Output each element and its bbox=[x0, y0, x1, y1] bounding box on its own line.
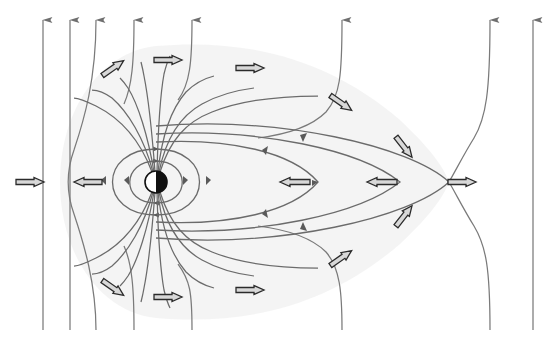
magnetopause-boundary-lower bbox=[449, 182, 490, 330]
figure-canvas bbox=[0, 0, 552, 350]
flow-arrow-downstream bbox=[448, 178, 476, 187]
magnetopause-boundary-upper bbox=[449, 20, 490, 182]
magnetosphere-diagram bbox=[0, 0, 552, 350]
flow-arrow-left-inbound bbox=[16, 178, 44, 187]
central-body bbox=[145, 171, 167, 193]
